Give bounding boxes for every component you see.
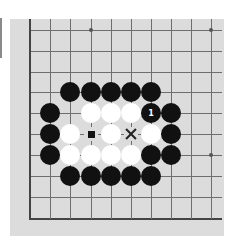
star-point <box>209 28 213 32</box>
black-stone[interactable] <box>40 145 60 165</box>
x-marker-icon <box>125 128 137 140</box>
white-stone[interactable] <box>81 103 101 123</box>
black-stone[interactable] <box>161 103 181 123</box>
grid-line-horizontal <box>29 218 222 220</box>
white-stone[interactable] <box>121 145 141 165</box>
grid-line-horizontal <box>29 51 222 52</box>
white-stone[interactable] <box>101 124 121 144</box>
black-stone[interactable] <box>60 166 80 186</box>
go-board[interactable]: 1 <box>10 19 224 236</box>
black-stone[interactable] <box>121 82 141 102</box>
grid-line-horizontal <box>29 197 222 198</box>
white-stone[interactable] <box>101 145 121 165</box>
black-stone[interactable] <box>40 103 60 123</box>
black-stone[interactable] <box>141 82 161 102</box>
grid-line-vertical <box>191 19 192 219</box>
black-stone[interactable] <box>60 82 80 102</box>
black-stone[interactable] <box>81 82 101 102</box>
black-stone[interactable] <box>101 82 121 102</box>
grid-line-vertical <box>70 19 71 219</box>
black-stone[interactable] <box>141 145 161 165</box>
black-stone[interactable] <box>40 124 60 144</box>
side-panel-tab[interactable] <box>0 18 2 58</box>
move-number-label: 1 <box>148 109 154 118</box>
white-stone[interactable] <box>81 145 101 165</box>
black-stone[interactable] <box>101 166 121 186</box>
black-stone[interactable] <box>161 145 181 165</box>
grid-line-vertical <box>211 19 212 219</box>
star-point <box>89 28 93 32</box>
white-stone[interactable] <box>141 124 161 144</box>
white-stone[interactable] <box>60 124 80 144</box>
star-point <box>209 153 213 157</box>
black-stone[interactable] <box>81 166 101 186</box>
white-stone[interactable] <box>121 103 141 123</box>
grid-line-horizontal <box>29 30 222 31</box>
black-stone[interactable] <box>161 124 181 144</box>
black-stone[interactable] <box>121 166 141 186</box>
white-stone[interactable] <box>101 103 121 123</box>
square-marker-icon <box>88 131 95 138</box>
black-stone[interactable] <box>141 166 161 186</box>
grid-line-vertical <box>29 19 31 219</box>
white-stone[interactable] <box>60 145 80 165</box>
grid-line-horizontal <box>29 72 222 73</box>
black-stone[interactable]: 1 <box>141 103 161 123</box>
